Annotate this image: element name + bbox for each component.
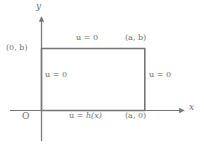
figure-canvas: y x O (0, b) (a, b) (a, 0) u = 0 u = 0 u… <box>0 0 204 145</box>
boundary-condition-left: u = 0 <box>45 71 67 79</box>
diagram-svg <box>0 0 204 145</box>
origin-label: O <box>22 112 29 121</box>
boundary-condition-bottom: u = h(x) <box>69 112 102 120</box>
boundary-condition-top: u = 0 <box>76 34 98 42</box>
corner-label-bottom-right: (a, 0) <box>125 112 146 120</box>
corner-label-top-left: (0, b) <box>6 44 28 52</box>
x-axis-label: x <box>189 103 194 112</box>
corner-label-top-right: (a, b) <box>125 34 146 42</box>
boundary-condition-right: u = 0 <box>149 71 171 79</box>
boundary-condition-bottom-lhs: u = <box>69 111 86 120</box>
y-axis-label: y <box>36 2 41 11</box>
boundary-condition-bottom-argument: (x) <box>91 111 102 120</box>
